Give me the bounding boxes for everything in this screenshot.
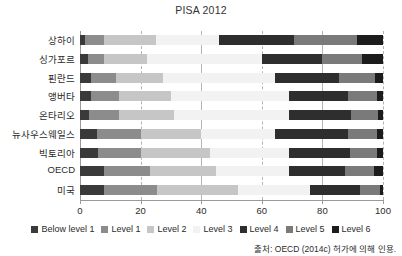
legend-swatch-icon (193, 226, 200, 233)
x-tick-label: 40 (196, 205, 207, 216)
bar-segment (262, 54, 323, 64)
bar-row: 뉴사우스웨일스 (80, 125, 383, 144)
source-note: 출처: OECD (2014c) 허가에 의해 인용. (254, 242, 396, 254)
bar-segment (80, 54, 88, 64)
bar-segment (104, 54, 146, 64)
bar-segment (80, 91, 91, 101)
legend-item[interactable]: Level 4 (240, 224, 279, 234)
bar-segment (219, 35, 293, 45)
bar-segment (104, 185, 157, 195)
legend-label: Level 5 (296, 224, 325, 234)
x-tick-label: 100 (375, 205, 391, 216)
bar-segment (171, 91, 289, 101)
stacked-bar (80, 148, 383, 158)
bar-segment (210, 148, 289, 158)
bar-segment (163, 73, 275, 83)
bar-segment (119, 91, 171, 101)
bar-segment (275, 73, 339, 83)
bar-segment (289, 166, 345, 176)
category-label: 미국 (57, 183, 75, 197)
bar-segment (345, 166, 374, 176)
x-tick-label: 80 (317, 205, 328, 216)
bar-segment (294, 35, 358, 45)
legend-item[interactable]: Level 2 (147, 224, 186, 234)
x-tick (80, 200, 81, 204)
x-tick (262, 200, 263, 204)
category-label: 빅토리아 (39, 146, 75, 160)
bar-row: 온타리오 (80, 106, 383, 125)
legend-item[interactable]: Below level 1 (31, 224, 94, 234)
legend-label: Level 6 (342, 224, 371, 234)
category-label: 핀란드 (48, 71, 75, 85)
bar-segment (80, 166, 104, 176)
bar-segment (310, 185, 360, 195)
bar-segment (351, 110, 378, 120)
bar-segment (80, 185, 104, 195)
chart-figure: PISA 2012 상하이싱가포르핀란드앵버타온타리오뉴사우스웨일스빅토리아OE… (0, 0, 402, 256)
category-label: 싱가포르 (39, 52, 75, 66)
bar-row: 앵버타 (80, 87, 383, 106)
bar-segment (348, 129, 377, 139)
bar-segment (89, 110, 119, 120)
bar-segment (377, 129, 383, 139)
bar-segment (380, 185, 383, 195)
bar-segment (104, 35, 156, 45)
legend-label: Below level 1 (41, 224, 94, 234)
bar-segment (147, 54, 262, 64)
bar-segment (362, 54, 383, 64)
legend-label: Level 1 (111, 224, 140, 234)
legend-swatch-icon (240, 226, 247, 233)
stacked-bar (80, 91, 383, 101)
bar-segment (91, 73, 117, 83)
x-tick (201, 200, 202, 204)
x-axis: 020406080100 (80, 200, 383, 201)
bar-row: OECD (80, 162, 383, 181)
stacked-bar (80, 110, 383, 120)
bar-segment (150, 166, 217, 176)
bar-segment (289, 110, 351, 120)
x-tick-label: 60 (257, 205, 268, 216)
x-tick (383, 200, 384, 204)
stacked-bar (80, 54, 383, 64)
legend-item[interactable]: Level 3 (193, 224, 232, 234)
stacked-bar (80, 185, 383, 195)
bar-segment (174, 110, 289, 120)
bar-segment (80, 73, 91, 83)
legend-item[interactable]: Level 5 (286, 224, 325, 234)
legend-swatch-icon (147, 226, 154, 233)
x-tick (322, 200, 323, 204)
stacked-bar (80, 73, 383, 83)
bar-row: 싱가포르 (80, 50, 383, 69)
chart-title: PISA 2012 (0, 4, 402, 16)
bar-segment (375, 73, 383, 83)
bar-segment (104, 166, 149, 176)
bar-segment (156, 35, 220, 45)
bar-segment (80, 129, 97, 139)
stacked-bar (80, 166, 383, 176)
chart-legend: Below level 1Level 1Level 2Level 3Level … (0, 224, 402, 234)
bar-segment (360, 185, 380, 195)
plot-area: 상하이싱가포르핀란드앵버타온타리오뉴사우스웨일스빅토리아OECD미국 (80, 31, 383, 200)
category-label: 상하이 (48, 33, 75, 47)
bar-segment (157, 185, 237, 195)
category-label: 온타리오 (39, 108, 75, 122)
bar-segment (339, 73, 375, 83)
bar-segment (80, 110, 89, 120)
bar-segment (378, 110, 383, 120)
bar-segment (85, 35, 105, 45)
legend-label: Level 2 (157, 224, 186, 234)
category-label: 앵버타 (48, 89, 75, 103)
legend-item[interactable]: Level 6 (332, 224, 371, 234)
stacked-bar (80, 129, 383, 139)
bar-segment (98, 148, 140, 158)
bar-segment (116, 73, 163, 83)
legend-label: Level 3 (203, 224, 232, 234)
bar-segment (377, 148, 383, 158)
bar-segment (91, 91, 120, 101)
legend-item[interactable]: Level 1 (101, 224, 140, 234)
bar-segment (201, 129, 275, 139)
x-tick-label: 20 (135, 205, 146, 216)
bar-segment (141, 148, 211, 158)
bar-segment (350, 148, 377, 158)
bar-segment (322, 54, 361, 64)
